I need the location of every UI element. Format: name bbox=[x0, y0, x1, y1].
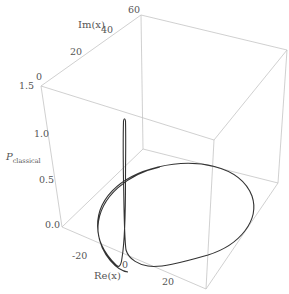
y-axis: 0 20 40 60 Im(x) bbox=[36, 4, 140, 82]
z-tick: 0.5 bbox=[39, 174, 54, 185]
y-tick: 60 bbox=[128, 4, 140, 15]
y-tick: 20 bbox=[70, 46, 82, 57]
z-axis-label: Pclassical bbox=[5, 151, 41, 165]
z-tick: 0.0 bbox=[45, 219, 60, 230]
trajectory-curve bbox=[98, 119, 254, 272]
x-tick: 0 bbox=[122, 259, 128, 270]
x-axis-label: Re(x) bbox=[94, 270, 121, 281]
y-axis-label: Im(x) bbox=[78, 19, 105, 30]
x-tick: 20 bbox=[162, 276, 174, 287]
y-tick: 0 bbox=[36, 71, 42, 82]
z-tick: 1.5 bbox=[19, 80, 34, 91]
x-tick: -20 bbox=[72, 250, 87, 261]
z-tick: 1.0 bbox=[34, 128, 49, 139]
z-axis: 1.5 1.0 0.5 0.0 Pclassical bbox=[5, 80, 60, 230]
3d-plot: 1.5 1.0 0.5 0.0 Pclassical 0 20 40 60 Im… bbox=[0, 0, 289, 294]
